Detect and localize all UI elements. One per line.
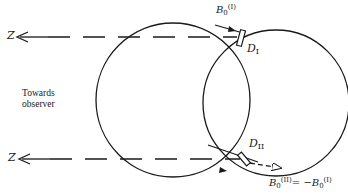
observer-label-line1: Towards xyxy=(22,88,55,98)
observer-label: Towards observer xyxy=(22,88,55,110)
axis-label-top: Z xyxy=(7,29,15,42)
field-top-label: B0(I) xyxy=(216,3,236,17)
field-top-arrowhead xyxy=(228,26,236,32)
field-bottom-dashed-arrow xyxy=(250,163,281,168)
detector-top-label: DI xyxy=(247,42,259,56)
detector-bottom-label: DII xyxy=(249,137,264,151)
observer-label-line2: observer xyxy=(22,99,55,109)
left-orbit-circle xyxy=(96,23,250,177)
axis-label-bottom: Z xyxy=(8,151,16,164)
right-orbit-circle xyxy=(203,30,348,176)
orbit-direction-arrowhead xyxy=(219,167,227,173)
field-bottom-label: B0(II)= −B0(I) xyxy=(269,176,332,190)
